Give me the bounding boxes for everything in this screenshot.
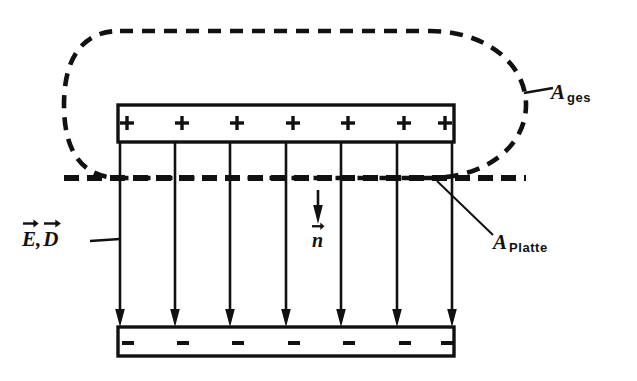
field-line [392, 142, 402, 327]
field-line [170, 142, 180, 327]
a-platte-leader-line [437, 181, 493, 235]
field-vector-leader-line [90, 239, 120, 241]
field-line [281, 142, 291, 327]
diagram-canvas [0, 0, 637, 381]
field-line [115, 142, 125, 327]
field-line [225, 142, 235, 327]
field-line [336, 142, 346, 327]
field-line [447, 142, 457, 327]
a-ges-leader-line [524, 88, 553, 93]
electric-field-lines [115, 142, 457, 327]
capacitor-diagram: Ages APlatte E , D [0, 0, 637, 381]
normal-vector-arrow [313, 190, 323, 224]
